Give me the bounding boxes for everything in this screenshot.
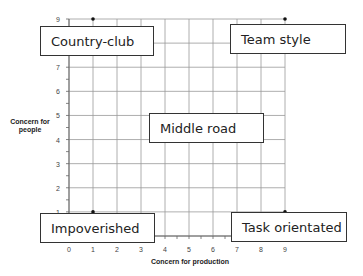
- y-axis-title-line1: Concern for: [4, 118, 56, 126]
- x-tick-label: 5: [187, 246, 191, 253]
- x-tick-label: 9: [283, 246, 287, 253]
- x-tick-label: 4: [163, 246, 167, 253]
- y-axis-title: Concern for people: [4, 118, 56, 134]
- y-tick-label: 3: [56, 160, 60, 167]
- country-club-label: Country-club: [40, 26, 154, 56]
- y-tick-label: 5: [56, 112, 60, 119]
- y-tick-label: 2: [56, 184, 60, 191]
- team-style-label: Team style: [230, 24, 346, 54]
- data-point: [91, 17, 95, 21]
- impoverished-label: Impoverished: [40, 213, 155, 243]
- x-tick-label: 1: [91, 246, 95, 253]
- x-tick-label: 0: [67, 246, 71, 253]
- middle-road-label: Middle road: [149, 113, 264, 143]
- task-orientated-label: Task orientated: [231, 212, 347, 242]
- y-tick-label: 6: [56, 88, 60, 95]
- y-axis-title-line2: people: [4, 126, 56, 134]
- x-tick-label: 6: [211, 246, 215, 253]
- y-tick-label: 4: [56, 136, 60, 143]
- x-axis-title: Concern for production: [130, 258, 250, 266]
- x-tick-label: 3: [139, 246, 143, 253]
- x-tick-label: 7: [235, 246, 239, 253]
- data-point: [283, 17, 287, 21]
- y-tick-label: 9: [56, 16, 60, 23]
- x-tick-label: 2: [115, 246, 119, 253]
- y-tick-label: 7: [56, 64, 60, 71]
- x-tick-label: 8: [259, 246, 263, 253]
